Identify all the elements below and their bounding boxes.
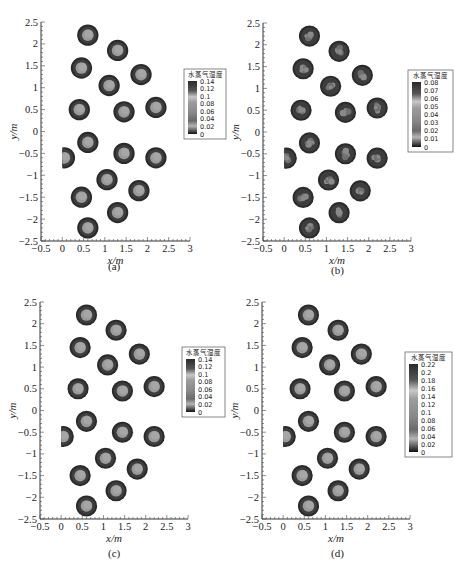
x-tick-label: 0: [282, 243, 287, 254]
heatmap-plot: 2.521.510.50−0.5−1−1.5−2−2.5−0.500.511.5…: [228, 0, 455, 287]
y-tick-label: 2.5: [24, 297, 37, 308]
legend-tick-label: 0.1: [421, 409, 431, 417]
legend-tick-label: 0.2: [421, 369, 431, 377]
legend-tick-label: 0.14: [421, 393, 435, 401]
legend-tick-label: 0.02: [421, 441, 435, 449]
legend-tick-label: 0.01: [424, 135, 438, 143]
y-tick-label: −2: [26, 492, 37, 503]
x-tick-label: 3: [187, 243, 192, 254]
legend-tick-label: 0.12: [421, 401, 435, 409]
legend-tick-label: 0.08: [424, 79, 438, 87]
x-tick-label: 1.5: [120, 243, 133, 254]
legend-tick-label: 0.18: [421, 377, 435, 385]
y-tick-label: −1.5: [241, 192, 260, 203]
x-tick-label: 1.5: [118, 521, 131, 532]
x-axis-label: x/m: [327, 532, 344, 544]
x-tick-label: 3: [407, 521, 412, 532]
y-tick-label: 2: [32, 318, 37, 329]
x-tick-label: 2: [145, 243, 150, 254]
colorbar-legend: 水蒸气湿度0.140.120.10.080.060.040.020: [184, 69, 226, 139]
x-tick-label: 2.5: [162, 243, 175, 254]
legend-tick-label: 0.22: [421, 361, 435, 369]
x-tick-label: 2.5: [383, 243, 396, 254]
y-tick-label: −1.5: [19, 192, 38, 203]
y-tick-label: 1.5: [25, 60, 38, 71]
y-axis-label: y/m: [229, 124, 241, 141]
y-tick-label: −1: [249, 170, 260, 181]
y-tick-label: −2: [249, 214, 260, 225]
panel-caption: (b): [331, 264, 344, 276]
panel-c: 2.521.510.50−0.5−1−1.5−2−2.5−0.500.511.5…: [0, 287, 228, 574]
colorbar-legend: 水蒸气湿度0.220.20.180.160.140.120.10.080.060…: [405, 352, 452, 457]
legend-tick-label: 0: [421, 449, 425, 457]
y-tick-label: −1: [248, 448, 259, 459]
legend-tick-label: 0.03: [424, 119, 438, 127]
y-tick-label: 1: [254, 362, 259, 373]
vapor-circles: [276, 26, 388, 239]
x-tick-label: 0.5: [298, 521, 311, 532]
x-tick-label: 1: [102, 243, 107, 254]
y-tick-label: 0.5: [247, 105, 260, 116]
panel-caption: (d): [331, 547, 344, 559]
y-tick-label: 0: [254, 405, 259, 416]
x-tick-label: 3: [185, 521, 190, 532]
y-tick-label: −1: [27, 170, 38, 181]
y-tick-label: 2: [254, 318, 259, 329]
legend-tick-label: 0.04: [421, 433, 435, 441]
x-tick-label: 2: [366, 243, 371, 254]
x-tick-label: 1: [324, 243, 329, 254]
x-tick-label: 2: [365, 521, 370, 532]
y-tick-label: 2: [255, 39, 260, 50]
colorbar-legend: 水蒸气湿度0.080.070.060.050.040.030.020.010: [408, 70, 453, 152]
x-tick-label: −0.5: [30, 521, 49, 532]
heatmap-plot: 2.521.510.50−0.5−1−1.5−2−2.5−0.500.511.5…: [228, 287, 455, 574]
legend-tick-label: 0.04: [424, 111, 438, 119]
y-tick-label: 0: [32, 405, 37, 416]
y-tick-label: 0: [255, 127, 260, 138]
legend-tick-label: 0: [424, 144, 428, 152]
y-tick-label: −0.5: [19, 148, 38, 159]
x-tick-label: 0: [281, 521, 286, 532]
y-axis-label: y/m: [6, 403, 18, 420]
y-tick-label: −1: [26, 448, 37, 459]
y-tick-label: 1: [33, 82, 38, 93]
y-tick-label: 0.5: [24, 383, 37, 394]
panel-b: 2.521.510.50−0.5−1−1.5−2−2.5−0.500.511.5…: [228, 0, 455, 287]
x-tick-label: 0.5: [77, 243, 90, 254]
x-tick-label: 0: [60, 243, 65, 254]
x-tick-label: 1: [101, 521, 106, 532]
y-tick-label: 1: [255, 83, 260, 94]
y-tick-label: 1.5: [246, 340, 259, 351]
x-tick-label: 0: [59, 521, 64, 532]
y-tick-label: 0.5: [25, 104, 38, 115]
legend-tick-label: 0.06: [424, 95, 438, 103]
y-tick-label: 1: [32, 362, 37, 373]
x-tick-label: 0.5: [299, 243, 312, 254]
x-tick-label: −0.5: [31, 243, 50, 254]
y-tick-label: −2: [248, 492, 259, 503]
y-axis-label: y/m: [7, 124, 19, 141]
y-tick-label: −1.5: [18, 470, 37, 481]
y-tick-label: −0.5: [18, 427, 37, 438]
legend-tick-label: 0.07: [424, 87, 438, 95]
legend-tick-label: 0.06: [421, 425, 435, 433]
legend-tick-label: 0.05: [424, 103, 438, 111]
y-tick-label: 0.5: [246, 383, 259, 394]
vapor-circles: [53, 304, 165, 516]
x-tick-label: 2.5: [160, 521, 173, 532]
x-tick-label: −0.5: [252, 521, 271, 532]
legend-tick-label: 0.08: [421, 417, 435, 425]
y-tick-label: 1.5: [24, 340, 37, 351]
x-tick-label: 2: [143, 521, 148, 532]
legend-tick-label: 0: [198, 409, 202, 417]
y-tick-label: −0.5: [241, 148, 260, 159]
x-tick-label: −0.5: [253, 243, 272, 254]
panel-caption: (c): [108, 547, 120, 559]
legend-tick-label: 0: [200, 131, 204, 139]
heatmap-plot: 2.521.510.50−0.5−1−1.5−2−2.5−0.500.511.5…: [0, 0, 228, 287]
x-axis-label: x/m: [105, 532, 122, 544]
legend-tick-label: 0.02: [424, 127, 438, 135]
x-tick-label: 2.5: [382, 521, 395, 532]
y-tick-label: −2: [27, 214, 38, 225]
vapor-circles: [54, 24, 167, 238]
